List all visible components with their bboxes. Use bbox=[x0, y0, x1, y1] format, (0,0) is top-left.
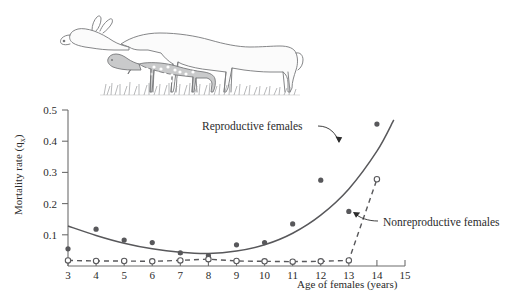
mortality-rate-figure: 0.10.20.30.40.5 3456789101112131415 Mort… bbox=[0, 0, 513, 303]
x-tick-label: 3 bbox=[65, 269, 71, 281]
data-point-nonreproductive bbox=[178, 258, 183, 263]
y-tick-label: 0.4 bbox=[43, 135, 57, 147]
y-axis-title-paren: ) bbox=[12, 134, 25, 138]
data-point-nonreproductive bbox=[150, 259, 155, 264]
annotation-arrow-reproductive bbox=[336, 137, 343, 144]
y-tick-label: 0.5 bbox=[43, 104, 57, 116]
annotation-nonreproductive: Nonreproductive females bbox=[353, 212, 500, 229]
series-points bbox=[65, 121, 379, 264]
data-point-nonreproductive bbox=[93, 258, 98, 263]
annotation-label-reproductive: Reproductive females bbox=[202, 120, 303, 133]
y-axis-title-main: Mortality rate (q bbox=[12, 142, 25, 215]
annotation-reproductive: Reproductive females bbox=[202, 120, 342, 143]
y-tick-label: 0.1 bbox=[43, 229, 57, 241]
data-point-reproductive bbox=[234, 242, 239, 247]
x-tick-label: 7 bbox=[178, 269, 184, 281]
annotation-leader-reproductive bbox=[318, 126, 339, 142]
svg-text:Mortality rate (qx): Mortality rate (qx) bbox=[12, 134, 27, 215]
data-point-reproductive bbox=[290, 221, 295, 226]
y-tick-label: 0.2 bbox=[43, 198, 57, 210]
data-point-reproductive bbox=[178, 250, 183, 255]
grass-tuft bbox=[104, 82, 296, 95]
trend-curve-reproductive-females bbox=[68, 120, 394, 254]
x-tick-label: 9 bbox=[234, 269, 240, 281]
x-tick-label: 8 bbox=[206, 269, 212, 281]
series-curves bbox=[68, 120, 394, 262]
x-tick-label: 5 bbox=[121, 269, 127, 281]
x-tick-label: 6 bbox=[150, 269, 156, 281]
data-point-reproductive bbox=[150, 240, 155, 245]
data-point-nonreproductive bbox=[318, 259, 323, 264]
data-point-nonreproductive bbox=[234, 258, 239, 263]
data-point-reproductive bbox=[65, 246, 70, 251]
data-point-reproductive bbox=[346, 209, 351, 214]
x-tick-label: 4 bbox=[93, 269, 99, 281]
data-point-nonreproductive bbox=[290, 259, 295, 264]
data-point-nonreproductive bbox=[121, 258, 126, 263]
figure-page: 0.10.20.30.40.5 3456789101112131415 Mort… bbox=[0, 0, 513, 303]
annotation-label-nonreproductive: Nonreproductive females bbox=[383, 216, 500, 229]
data-point-nonreproductive bbox=[65, 258, 70, 263]
y-tick-label: 0.3 bbox=[43, 166, 57, 178]
x-tick-label: 15 bbox=[400, 269, 412, 281]
data-point-nonreproductive bbox=[346, 258, 351, 263]
y-axis-title: Mortality rate (qx) bbox=[12, 134, 27, 215]
data-point-reproductive bbox=[318, 178, 323, 183]
x-axis-title: Age of females (years) bbox=[297, 278, 398, 291]
data-point-reproductive bbox=[374, 121, 379, 126]
trend-curve-nonreproductive-females bbox=[68, 179, 377, 261]
deer-illustration bbox=[61, 16, 304, 95]
y-axis-ticks bbox=[62, 110, 68, 235]
data-point-nonreproductive bbox=[206, 256, 211, 261]
y-axis-tick-labels: 0.10.20.30.40.5 bbox=[43, 104, 57, 241]
x-tick-label: 10 bbox=[259, 269, 271, 281]
data-point-reproductive bbox=[93, 227, 98, 232]
data-point-nonreproductive bbox=[374, 177, 379, 182]
data-point-reproductive bbox=[122, 238, 127, 243]
data-point-reproductive bbox=[262, 240, 267, 245]
data-point-nonreproductive bbox=[262, 259, 267, 264]
